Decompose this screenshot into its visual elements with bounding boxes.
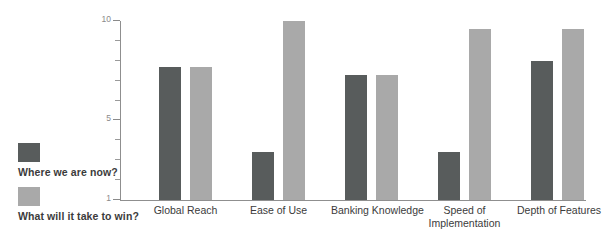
y-axis-tick: 1 [120,199,121,200]
x-axis-category-label: Banking Knowledge [331,204,412,217]
legend-swatch-what-will-it-take-to-win [18,187,40,206]
x-axis-category-label: Ease of Use [238,204,319,217]
y-axis-tick-label: 10 [102,14,111,24]
bar-group-bars [238,21,319,200]
x-axis-category-label-line: Speed of [443,204,485,216]
bar[interactable] [345,75,367,200]
y-axis-tick-mark [115,100,120,101]
y-axis-tick: 10 [120,20,121,21]
bar-group-bars [424,21,505,200]
y-axis-tick-mark [113,20,120,21]
y-axis-tick-mark [115,60,120,61]
bar[interactable] [283,21,305,200]
y-axis-tick-mark [115,159,120,160]
x-axis-baseline [120,200,586,201]
bar[interactable] [531,61,553,200]
y-axis-tick [120,179,121,180]
x-axis-category-label: Depth of Features [517,204,598,217]
y-axis-tick [120,60,121,61]
y-axis-tick-mark [115,40,120,41]
y-axis-tick [120,159,121,160]
y-axis-tick [120,80,121,81]
bar-group: Ease of Use [238,21,319,200]
bar-group-bars [145,21,226,200]
y-axis-tick-mark [115,80,120,81]
x-axis-category-label-line: Banking Knowledge [331,204,424,216]
bar[interactable] [159,67,181,200]
bar[interactable] [252,152,274,200]
bar-group-bars [331,21,412,200]
y-axis-tick [120,100,121,101]
bar[interactable] [438,152,460,200]
x-axis-category-label: Speed ofImplementation [424,204,505,230]
bar-group: Global Reach [145,21,226,200]
plot-area: 1510Global ReachEase of UseBanking Knowl… [120,21,586,200]
bar-group: Speed ofImplementation [424,21,505,200]
bar-group: Banking Knowledge [331,21,412,200]
bar[interactable] [469,29,491,200]
legend-swatch-where-we-are-now [18,143,40,162]
x-axis-category-label-line: Implementation [424,217,505,230]
bar[interactable] [376,75,398,200]
y-axis-tick [120,139,121,140]
legend-label-what-will-it-take-to-win: What will it take to win? [18,210,153,222]
bar-group-bars [517,21,598,200]
bar[interactable] [562,29,584,200]
y-axis-tick: 5 [120,119,121,120]
x-axis-category-label-line: Global Reach [154,204,218,216]
bar-group: Depth of Features [517,21,598,200]
y-axis-tick-label: 5 [106,113,111,123]
y-axis-tick [120,40,121,41]
y-axis-tick-mark [115,139,120,140]
y-axis-tick-label: 1 [106,193,111,203]
y-axis-tick-mark [113,119,120,120]
x-axis-category-label-line: Depth of Features [517,204,601,216]
x-axis-category-label: Global Reach [145,204,226,217]
bar[interactable] [190,67,212,200]
x-axis-category-label-line: Ease of Use [250,204,307,216]
y-axis-tick-mark [113,199,120,200]
y-axis-tick-mark [115,179,120,180]
bar-chart-figure: Where we are now? What will it take to w… [0,0,604,252]
